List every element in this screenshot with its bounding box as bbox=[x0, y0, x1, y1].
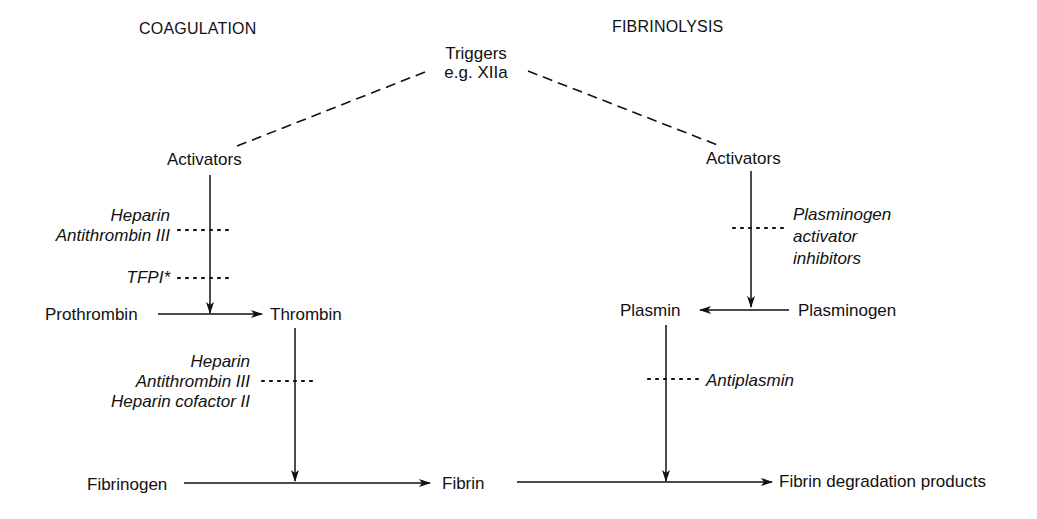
node-fibrin-degradation-products: Fibrin degradation products bbox=[779, 472, 986, 491]
trigger-label: Triggers e.g. XIIa bbox=[426, 44, 526, 82]
coag-inhibitors-1: Heparin Antithrombin III bbox=[20, 206, 170, 246]
dashed-line-to-fib-activators bbox=[528, 71, 720, 146]
node-fibrinogen: Fibrinogen bbox=[87, 475, 167, 494]
node-fibrin: Fibrin bbox=[442, 474, 485, 493]
inhibitor-heparin-cofactor-ii: Heparin cofactor II bbox=[90, 392, 250, 412]
node-plasmin: Plasmin bbox=[620, 301, 680, 320]
coag-activators: Activators bbox=[167, 150, 242, 169]
inhibitor-antithrombin-iii-2: Antithrombin III bbox=[90, 372, 250, 392]
inhibitor-antithrombin-iii: Antithrombin III bbox=[20, 226, 170, 246]
inhibitor-activator: activator bbox=[793, 226, 891, 248]
coag-inhibitors-3: Heparin Antithrombin III Heparin cofacto… bbox=[90, 352, 250, 412]
inhibitor-antiplasmin: Antiplasmin bbox=[706, 371, 794, 390]
trigger-line2: e.g. XIIa bbox=[426, 63, 526, 82]
node-prothrombin: Prothrombin bbox=[45, 305, 138, 324]
fib-activators: Activators bbox=[706, 149, 781, 168]
trigger-line1: Triggers bbox=[426, 44, 526, 63]
dashed-line-to-coag-activators bbox=[232, 72, 425, 148]
inhibitor-tfpi: TFPI* bbox=[60, 268, 170, 287]
node-thrombin: Thrombin bbox=[270, 305, 342, 324]
inhibitor-plasminogen: Plasminogen bbox=[793, 204, 891, 226]
node-plasminogen: Plasminogen bbox=[798, 301, 896, 320]
header-coagulation: COAGULATION bbox=[139, 19, 256, 38]
inhibitor-inhibitors: inhibitors bbox=[793, 248, 891, 270]
inhibitor-heparin-2: Heparin bbox=[90, 352, 250, 372]
fib-inhibitors-1: Plasminogen activator inhibitors bbox=[793, 204, 891, 270]
inhibitor-heparin: Heparin bbox=[20, 206, 170, 226]
header-fibrinolysis: FIBRINOLYSIS bbox=[612, 17, 723, 36]
